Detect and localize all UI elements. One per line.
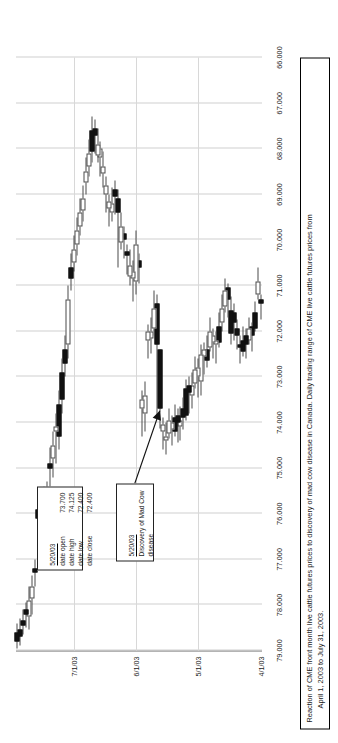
date-tick-label: 6/1/03 (132, 652, 141, 676)
callout-ohlc-row: date close72.400 (86, 491, 95, 565)
price-tick-label: 78.000 (275, 593, 284, 616)
rotated-figure-stage: 79.00078.00077.00076.00075.00074.00073.0… (0, 0, 338, 743)
callout-ohlc-row-value: 74.125 (68, 492, 77, 518)
callout-ohlc-row-label: date high (68, 523, 77, 565)
callout-ohlc-rows: date open73.700date high74.125date low72… (59, 491, 94, 565)
callout-ohlc-row: date low72.400 (77, 491, 86, 565)
callout-event-line2: disease (147, 488, 156, 556)
price-tick-label: 75.000 (275, 456, 284, 479)
callout-ohlc-row-label: date open (59, 523, 68, 565)
price-tick-label: 71.000 (275, 274, 284, 297)
figure-caption-box: Reaction of CME front month live cattle … (300, 57, 330, 729)
figure-caption-line1: Reaction of CME front month live cattle … (305, 64, 316, 722)
callout-ohlc-row-value: 73.700 (59, 492, 68, 518)
callout-ohlc-row-value: 72.400 (77, 492, 86, 518)
callout-ohlc-row-label: date close (86, 523, 95, 565)
price-tick-label: 72.000 (275, 319, 284, 342)
price-tick-label: 69.000 (275, 183, 284, 206)
price-tick-label: 76.000 (275, 502, 284, 525)
callout-event-line1: Discovery of Mad Cow (138, 488, 147, 556)
date-tick-label: 5/1/03 (194, 652, 203, 676)
date-tick-label: 4/1/03 (256, 652, 265, 676)
price-tick-label: 73.000 (275, 365, 284, 388)
price-tick-label: 67.000 (275, 91, 284, 114)
chart-block: 79.00078.00077.00076.00075.00074.00073.0… (16, 57, 288, 729)
candlestick-body (15, 632, 20, 641)
price-tick-label: 79.000 (275, 639, 284, 662)
chart-plot-area: 79.00078.00077.00076.00075.00074.00073.0… (16, 57, 262, 651)
figure-page: 79.00078.00077.00076.00075.00074.00073.0… (0, 0, 338, 743)
callout-ohlc-row: date open73.700 (59, 491, 68, 565)
callout-ohlc-row-label: date low (77, 523, 86, 565)
callout-mad-cow-event: 5/20/03 Discovery of Mad Cow disease (116, 483, 154, 561)
callout-ohlc-row-value: 72.400 (86, 492, 95, 518)
callout-event-date: 5/20/03 (128, 534, 137, 556)
callout-ohlc-row: date high74.125 (68, 491, 77, 565)
price-tick-label: 77.000 (275, 547, 284, 570)
price-tick-label: 66.000 (275, 46, 284, 69)
date-tick-label: 7/1/03 (69, 652, 78, 676)
candlestick (13, 57, 21, 650)
callout-ohlc-date: 5/20/03 (49, 543, 58, 565)
price-tick-label: 68.000 (275, 137, 284, 160)
callout-ohlc-values: 5/20/03 date open73.700date high74.125da… (37, 486, 83, 570)
price-tick-label: 70.000 (275, 228, 284, 251)
price-tick-label: 74.000 (275, 411, 284, 434)
figure-caption-line2: April 1, 2003 to July 31, 2003. (316, 64, 327, 722)
